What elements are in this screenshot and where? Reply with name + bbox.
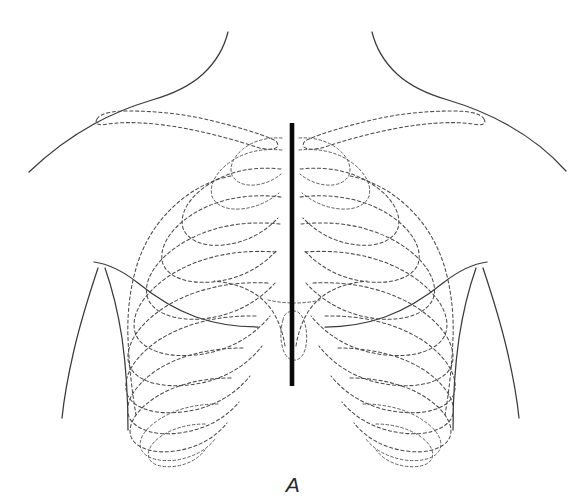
canvas-background bbox=[0, 0, 579, 504]
panel-label: A bbox=[284, 473, 301, 496]
figure-container: A bbox=[0, 0, 579, 504]
anatomy-illustration: A bbox=[0, 0, 579, 504]
